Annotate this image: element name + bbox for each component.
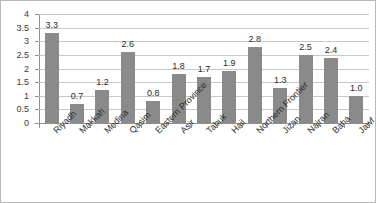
x-axis-category-label: Riyadh <box>52 109 78 135</box>
x-axis-category-label: Medina <box>103 108 130 135</box>
bar-chart-figure: 00.511.522.533.54 3.30.71.22.60.81.81.71… <box>0 0 376 203</box>
x-axis-tick-mark <box>64 124 65 128</box>
x-axis-tick-mark <box>318 124 319 128</box>
y-axis-tick-mark <box>35 109 39 110</box>
y-axis-tick-mark <box>35 14 39 15</box>
x-axis-tick-mark <box>369 124 370 128</box>
x-axis-tick-mark <box>115 124 116 128</box>
x-axis-tick-mark <box>217 124 218 128</box>
x-axis-category-label: Makkah <box>78 107 107 136</box>
x-axis-category-labels: RiyadhMakkahMedinaQasimEastern ProvinceA… <box>1 1 376 203</box>
y-axis-tick-mark <box>35 41 39 42</box>
x-axis-tick-mark <box>344 124 345 128</box>
x-axis-category-label: Hail <box>230 118 247 135</box>
x-axis-category-label: Baha <box>331 114 352 135</box>
x-axis-category-label: Asir <box>179 118 196 135</box>
x-axis-tick-mark <box>293 124 294 128</box>
y-axis-tick-mark <box>35 69 39 70</box>
x-axis-category-label: Najran <box>306 110 331 135</box>
y-axis-tick-mark <box>35 96 39 97</box>
x-axis-tick-mark <box>90 124 91 128</box>
y-axis-tick-mark <box>35 82 39 83</box>
x-axis-category-label: Qasim <box>128 111 153 136</box>
x-axis-tick-mark <box>141 124 142 128</box>
x-axis-tick-mark <box>166 124 167 128</box>
x-axis-category-label: Jawf <box>357 116 376 135</box>
x-axis-category-label: Jizan <box>281 114 302 135</box>
x-axis-tick-mark <box>39 124 40 128</box>
x-axis-tick-mark <box>267 124 268 128</box>
y-axis-tick-mark <box>35 55 39 56</box>
x-axis-tick-mark <box>242 124 243 128</box>
x-axis-tick-mark <box>191 124 192 128</box>
y-axis-tick-mark <box>35 28 39 29</box>
